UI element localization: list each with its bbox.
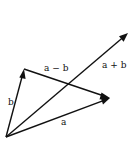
vector-diagram: a b a − b a + b [0,0,136,145]
vector-b: b [6,69,26,137]
label-a: a [61,117,67,127]
vector-a-minus-b: a − b [24,63,110,100]
vector-a-plus-b: a + b [6,33,128,137]
arrowhead-b-icon [19,69,25,79]
label-b: b [8,97,14,107]
vector-a: a [6,97,110,137]
label-a-minus-b: a − b [44,63,69,73]
label-a-plus-b: a + b [102,60,127,70]
